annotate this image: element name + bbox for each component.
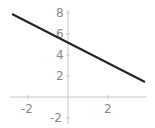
data-line <box>12 14 145 82</box>
x-tick-label: 2 <box>104 102 112 116</box>
y-tick-label: 4 <box>56 48 64 62</box>
y-tick-label: 2 <box>56 69 64 83</box>
y-tick-label: -2 <box>50 111 62 125</box>
y-tick-label: 8 <box>56 6 64 20</box>
x-tick-label: -2 <box>21 102 33 116</box>
line-chart: -2 2 8 6 4 2 -2 <box>0 0 155 128</box>
